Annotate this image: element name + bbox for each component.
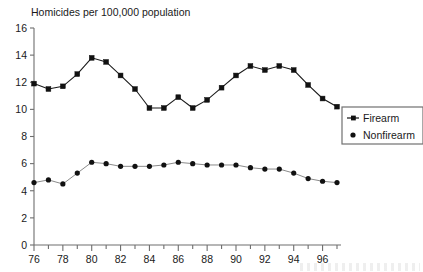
homicide-rate-line-chart: Homicides per 100,000 population02468101… [0, 0, 423, 272]
data-point-firearm [176, 95, 181, 100]
data-point-nonfirearm [132, 164, 137, 169]
data-point-nonfirearm [219, 162, 224, 167]
data-point-nonfirearm [60, 181, 65, 186]
x-axis-tick-label: 90 [230, 253, 242, 265]
data-point-nonfirearm [306, 176, 311, 181]
data-point-firearm [118, 73, 123, 78]
data-point-firearm [262, 68, 267, 73]
data-point-nonfirearm [161, 162, 166, 167]
data-point-nonfirearm [118, 164, 123, 169]
data-point-nonfirearm [89, 160, 94, 165]
data-point-firearm [219, 85, 224, 90]
data-point-firearm [234, 73, 239, 78]
y-axis-tick-label: 16 [15, 22, 27, 34]
page-artifact-smudge [300, 263, 420, 271]
y-axis-tick-label: 4 [21, 185, 27, 197]
data-point-nonfirearm [46, 177, 51, 182]
data-point-firearm [291, 68, 296, 73]
data-point-nonfirearm [147, 164, 152, 169]
data-point-nonfirearm [320, 179, 325, 184]
y-axis-tick-label: 0 [21, 239, 27, 251]
x-axis-tick-label: 76 [28, 253, 40, 265]
x-axis-tick-label: 78 [57, 253, 69, 265]
square-marker-icon [351, 116, 356, 121]
data-point-firearm [306, 83, 311, 88]
data-point-firearm [190, 106, 195, 111]
data-point-nonfirearm [233, 162, 238, 167]
data-point-firearm [248, 64, 253, 69]
data-point-nonfirearm [262, 166, 267, 171]
legend-label-nonfirearm: Nonfirearm [363, 129, 415, 141]
x-axis-tick-label: 82 [115, 253, 127, 265]
data-point-nonfirearm [277, 166, 282, 171]
y-axis-tick-label: 14 [15, 49, 27, 61]
data-point-firearm [60, 84, 65, 89]
y-axis-tick-label: 8 [21, 130, 27, 142]
data-point-firearm [277, 64, 282, 69]
data-point-nonfirearm [190, 161, 195, 166]
x-axis-tick-label: 86 [172, 253, 184, 265]
y-axis-tick-label: 2 [21, 212, 27, 224]
data-point-firearm [147, 106, 152, 111]
data-point-nonfirearm [334, 180, 339, 185]
data-point-nonfirearm [248, 165, 253, 170]
data-point-firearm [104, 60, 109, 65]
data-point-firearm [89, 55, 94, 60]
legend-label-firearm: Firearm [363, 112, 399, 124]
dot-marker-icon [350, 132, 355, 137]
data-point-firearm [335, 104, 340, 109]
x-axis-tick-label: 92 [259, 253, 271, 265]
data-point-firearm [205, 97, 210, 102]
data-point-firearm [161, 106, 166, 111]
data-point-nonfirearm [176, 160, 181, 165]
data-point-firearm [46, 87, 51, 92]
data-point-nonfirearm [31, 180, 36, 185]
x-axis-tick-label: 84 [144, 253, 156, 265]
y-axis-tick-label: 6 [21, 157, 27, 169]
data-point-firearm [32, 81, 37, 86]
data-point-nonfirearm [205, 162, 210, 167]
x-axis-tick-label: 94 [288, 253, 300, 265]
x-axis-tick-label: 80 [86, 253, 98, 265]
x-axis-tick-label: 88 [201, 253, 213, 265]
data-point-nonfirearm [104, 161, 109, 166]
data-point-firearm [133, 87, 138, 92]
y-axis-tick-label: 12 [15, 76, 27, 88]
series-line-firearm [34, 58, 337, 108]
data-point-firearm [320, 96, 325, 101]
y-axis-tick-label: 10 [15, 103, 27, 115]
data-point-firearm [75, 72, 80, 77]
chart-figure: Homicides per 100,000 population02468101… [0, 0, 423, 272]
data-point-nonfirearm [291, 171, 296, 176]
chart-title: Homicides per 100,000 population [31, 6, 191, 18]
data-point-nonfirearm [75, 171, 80, 176]
